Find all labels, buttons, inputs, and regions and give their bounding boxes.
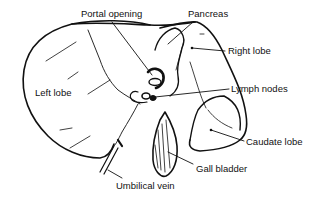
label-lymph-nodes: Lymph nodes [231,84,288,94]
umbilical-vein-tip [118,140,122,146]
lymph-node-2 [150,96,156,101]
leader-portal-opening [112,22,152,75]
portal-opening-hole [149,79,161,86]
liver-drawing [0,0,321,199]
umbilical-vein-shape [100,146,118,174]
label-umbilical-vein: Umbilical vein [116,181,175,191]
leader-lymph-nodes [155,89,229,97]
liver-diagram: Portal opening Pancreas Right lobe Left … [0,0,321,199]
dot-caudate-lobe [210,129,213,132]
label-gall-bladder: Gall bladder [196,164,247,174]
label-portal-opening: Portal opening [81,9,142,19]
dot-right-lobe [191,47,194,50]
label-left-lobe: Left lobe [35,88,71,98]
leader-right-lobe [192,48,225,51]
leader-caudate-lobe [211,130,244,141]
leader-gall-bladder [168,152,193,164]
right-lobe-detail [176,34,232,128]
label-right-lobe: Right lobe [228,46,271,56]
lymph-node-1 [142,93,150,99]
leader-umbilical-vein [108,170,122,178]
label-caudate-lobe: Caudate lobe [246,137,303,147]
label-pancreas: Pancreas [188,9,228,19]
